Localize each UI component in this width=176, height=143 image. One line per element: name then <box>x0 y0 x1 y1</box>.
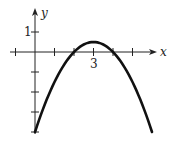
y-axis-label: y <box>40 6 48 20</box>
x-axis-label: x <box>160 45 167 59</box>
plot-area: x y 3 1 <box>0 0 176 143</box>
axes <box>10 8 157 134</box>
y-tick-label-1: 1 <box>24 25 32 39</box>
x-tick-label-3: 3 <box>90 57 98 71</box>
parabola-graph: x y 3 1 <box>0 0 176 143</box>
ticks <box>16 32 133 132</box>
